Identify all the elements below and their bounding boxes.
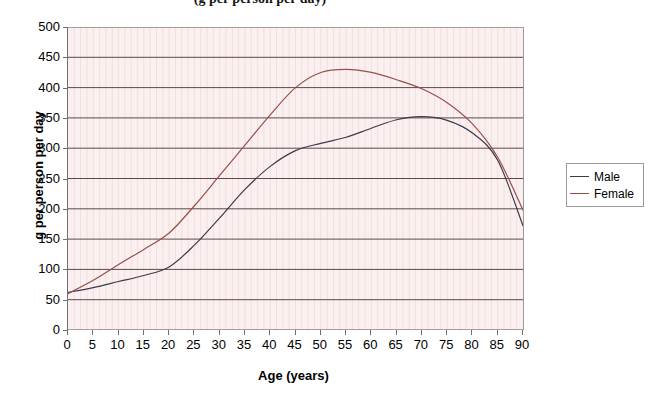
x-tick-mark (295, 330, 296, 335)
legend-label: Female (594, 188, 634, 200)
x-tick-mark (345, 330, 346, 335)
x-tick-mark (370, 330, 371, 335)
x-tick-mark (118, 330, 119, 335)
legend-label: Male (594, 171, 620, 183)
x-tick-label: 90 (507, 338, 537, 351)
x-tick-mark (92, 330, 93, 335)
x-tick-mark (320, 330, 321, 335)
x-tick-mark (193, 330, 194, 335)
x-tick-mark (396, 330, 397, 335)
chart-container: (g per person per day) g per person per … (0, 0, 651, 393)
x-tick-mark (471, 330, 472, 335)
legend-item-female[interactable]: Female (570, 185, 640, 202)
x-tick-mark (421, 330, 422, 335)
x-tick-mark (219, 330, 220, 335)
chart-legend: MaleFemale (566, 163, 644, 207)
x-tick-mark (269, 330, 270, 335)
x-tick-mark (244, 330, 245, 335)
x-tick-mark (522, 330, 523, 335)
x-axis-title: Age (years) (66, 368, 521, 383)
x-tick-mark (143, 330, 144, 335)
x-tick-mark (497, 330, 498, 335)
x-tick-mark (446, 330, 447, 335)
legend-item-male[interactable]: Male (570, 168, 640, 185)
legend-line-swatch (570, 176, 589, 177)
legend-line-swatch (570, 193, 589, 194)
x-tick-mark (67, 330, 68, 335)
x-tick-mark (168, 330, 169, 335)
x-axis-tick-labels: 051015202530354045505560657075808590 (0, 0, 651, 393)
